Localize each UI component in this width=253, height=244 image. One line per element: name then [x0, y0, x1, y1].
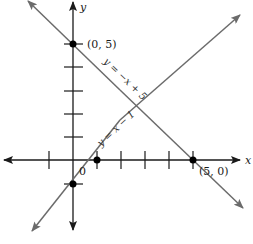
line-y-equals-x-minus-1: [32, 15, 240, 231]
point-1-0: [94, 157, 101, 164]
point-0-neg1: [70, 181, 77, 188]
point-5-0: [190, 157, 197, 164]
equation-label-line2: y = x − 1: [94, 108, 137, 149]
coordinate-plane: y x 0 (0, 5) (5, 0) y = −x + 5 y = x − 1: [0, 0, 253, 244]
point-label-5-0: (5, 0): [199, 165, 229, 178]
origin-label: 0: [79, 165, 86, 178]
point-0-5: [70, 41, 77, 48]
y-axis-label: y: [79, 1, 87, 14]
x-axis-label: x: [245, 154, 252, 167]
point-label-0-5: (0, 5): [87, 38, 117, 51]
